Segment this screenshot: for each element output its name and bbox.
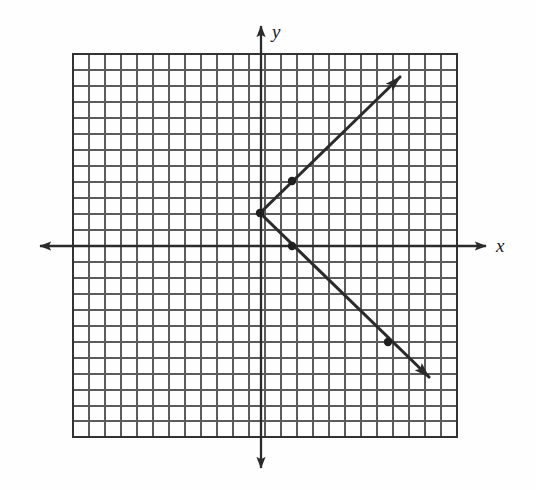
x-axis-label: x — [495, 235, 505, 256]
point-upper-ray — [288, 177, 296, 185]
point-vertex — [256, 209, 264, 217]
y-axis-label: y — [270, 21, 281, 42]
graph-figure: y x — [0, 0, 536, 490]
point-lower-ray — [384, 338, 392, 346]
axis-lines — [40, 26, 486, 468]
coordinate-plane-svg: y x — [0, 0, 536, 490]
point-x-intercept — [288, 242, 296, 250]
